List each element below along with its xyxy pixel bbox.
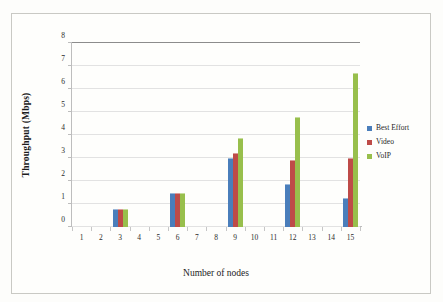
x-tick-mark <box>226 227 227 231</box>
y-tick-mark <box>68 111 72 112</box>
y-tick-mark <box>68 203 72 204</box>
chart-legend: Best EffortVideoVoIP <box>367 121 427 163</box>
legend-label: VoIP <box>376 152 391 160</box>
bar-highlight <box>123 209 128 210</box>
x-tick-label: 2 <box>99 234 103 242</box>
bar <box>123 209 128 227</box>
x-tick-mark <box>302 227 303 231</box>
bar-group <box>285 43 300 227</box>
x-tick-mark <box>341 227 342 231</box>
x-axis-title: Number of nodes <box>72 268 360 278</box>
y-tick-mark <box>68 42 72 43</box>
x-tick-label: 1 <box>80 234 84 242</box>
x-tick-mark <box>187 227 188 231</box>
y-tick-label: 0 <box>61 216 65 224</box>
x-tick-mark <box>206 227 207 231</box>
bar <box>238 138 243 227</box>
scan-edge <box>0 302 443 308</box>
y-tick-mark <box>68 157 72 158</box>
x-tick-mark <box>322 227 323 231</box>
x-tick-mark <box>264 227 265 231</box>
x-tick-label: 13 <box>308 234 316 242</box>
bar-group <box>170 43 185 227</box>
y-tick-label: 1 <box>61 193 65 201</box>
legend-swatch-icon <box>367 126 372 131</box>
x-tick-label: 5 <box>157 234 161 242</box>
y-tick-label: 6 <box>61 78 65 86</box>
x-tick-label: 11 <box>270 234 277 242</box>
y-tick-label: 4 <box>61 124 65 132</box>
y-tick-label: 2 <box>61 170 65 178</box>
y-axis-title: Throughput (Mbps) <box>21 93 31 178</box>
x-tick-label: 3 <box>118 234 122 242</box>
y-tick-mark <box>68 134 72 135</box>
legend-item-best-effort[interactable]: Best Effort <box>367 121 427 135</box>
y-axis-line <box>71 43 72 227</box>
bar <box>180 193 185 228</box>
x-tick-label: 6 <box>176 234 180 242</box>
x-tick-mark <box>149 227 150 231</box>
bar-highlight <box>353 73 358 74</box>
legend-label: Video <box>376 138 394 146</box>
x-tick-label: 15 <box>347 234 355 242</box>
x-tick-label: 8 <box>214 234 218 242</box>
bar-group <box>228 43 243 227</box>
x-tick-mark <box>72 227 73 231</box>
y-tick-label: 7 <box>61 55 65 63</box>
x-tick-label: 4 <box>137 234 141 242</box>
legend-swatch-icon <box>367 140 372 145</box>
figure-canvas: Throughput (Mbps) 012345678 123456789101… <box>0 0 443 308</box>
bar <box>295 117 300 227</box>
legend-swatch-icon <box>367 154 372 159</box>
y-tick-mark <box>68 65 72 66</box>
x-tick-mark <box>110 227 111 231</box>
x-tick-mark <box>130 227 131 231</box>
legend-item-video[interactable]: Video <box>367 135 427 149</box>
x-tick-mark <box>168 227 169 231</box>
x-tick-label: 9 <box>233 234 237 242</box>
bar-highlight <box>295 117 300 118</box>
plot-area: 012345678 123456789101112131415 <box>72 43 360 227</box>
x-tick-label: 10 <box>251 234 259 242</box>
y-tick-mark <box>68 88 72 89</box>
x-tick-label: 12 <box>289 234 297 242</box>
y-tick-label: 5 <box>61 101 65 109</box>
y-tick-mark <box>68 180 72 181</box>
bar <box>353 73 358 227</box>
x-tick-label: 7 <box>195 234 199 242</box>
bar-highlight <box>180 193 185 194</box>
legend-label: Best Effort <box>376 124 409 132</box>
bar-highlight <box>238 138 243 139</box>
legend-item-voip[interactable]: VoIP <box>367 149 427 163</box>
y-tick-label: 3 <box>61 147 65 155</box>
x-tick-label: 14 <box>327 234 335 242</box>
x-tick-mark <box>360 227 361 231</box>
x-tick-mark <box>245 227 246 231</box>
y-tick-label: 8 <box>61 32 65 40</box>
bar-group <box>113 43 128 227</box>
bar-group <box>343 43 358 227</box>
x-tick-mark <box>283 227 284 231</box>
x-tick-mark <box>91 227 92 231</box>
